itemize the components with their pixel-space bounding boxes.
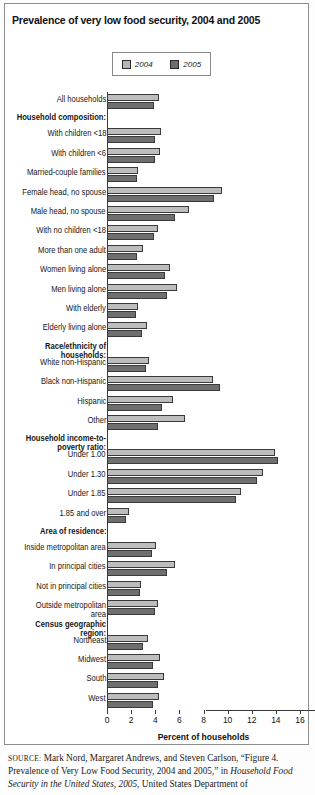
chart-row: With no children <18 (8, 223, 306, 242)
x-tick-label: 10 (223, 715, 232, 725)
chart-row: More than one adult (8, 243, 306, 262)
row-bars (107, 204, 306, 223)
row-label-text: Outside metropolitan area (20, 601, 106, 619)
bar-2005 (107, 292, 167, 299)
chart-row: All households (8, 92, 306, 111)
row-bars (107, 165, 306, 184)
row-bars (107, 525, 306, 540)
bar-2005 (107, 156, 155, 163)
row-label-text: Elderly living alone (42, 323, 106, 332)
category-header-row: Household composition: (8, 111, 306, 126)
row-bars (107, 146, 306, 165)
chart-row: Male head, no spouse (8, 204, 306, 223)
x-tick (276, 710, 277, 714)
row-label-text: Black non-Hispanic (41, 377, 106, 386)
row-bars (107, 223, 306, 242)
row-bars (107, 633, 306, 652)
row-label-text: Northeast (73, 636, 106, 645)
bar-2005 (107, 136, 155, 143)
row-bars (107, 506, 306, 525)
x-tick-label: 12 (247, 715, 256, 725)
row-bars (107, 432, 306, 447)
x-tick-label: 0 (105, 715, 110, 725)
bar-2004 (107, 635, 148, 642)
bar-2004 (107, 264, 170, 271)
chart-row: Midwest (8, 652, 306, 671)
row-label-text: West (89, 694, 106, 703)
chart-row: Inside metropolitan area (8, 540, 306, 559)
bar-2004 (107, 693, 159, 700)
bar-2005 (107, 102, 154, 109)
bar-2004 (107, 303, 138, 310)
bar-2004 (107, 128, 161, 135)
row-label-text: More than one adult (38, 246, 106, 255)
row-bars (107, 282, 306, 301)
chart-plot-area: All householdsHousehold composition:With… (8, 92, 306, 717)
row-bars (107, 262, 306, 281)
chart-row: Under 1.00 (8, 447, 306, 466)
chart-row: 1.85 and over (8, 506, 306, 525)
row-label-text: Household composition: (17, 113, 106, 122)
bar-2004 (107, 148, 160, 155)
bar-2004 (107, 357, 149, 364)
category-header-row: Race/ethnicity of households: (8, 340, 306, 355)
y-axis-line (107, 92, 108, 710)
bar-2005 (107, 233, 154, 240)
bar-2004 (107, 673, 164, 680)
bar-2005 (107, 496, 236, 503)
row-bars (107, 111, 306, 126)
category-header-row: Household income-to-poverty ratio: (8, 432, 306, 447)
bar-2004 (107, 542, 156, 549)
chart-row: Female head, no spouse (8, 185, 306, 204)
legend-label-2005: 2005 (183, 60, 201, 69)
row-bars (107, 394, 306, 413)
bar-2004 (107, 245, 143, 252)
row-bars (107, 126, 306, 145)
row-bars (107, 559, 306, 578)
x-tick-label: 4 (153, 715, 158, 725)
bar-2005 (107, 569, 167, 576)
chart-row: With elderly (8, 301, 306, 320)
chart-row: Women living alone (8, 262, 306, 281)
x-axis-title: Percent of households (107, 732, 300, 742)
bar-2004 (107, 449, 275, 456)
legend-label-2004: 2004 (135, 60, 153, 69)
row-bars (107, 598, 306, 617)
bar-2004 (107, 581, 141, 588)
chart-row: Men living alone (8, 282, 306, 301)
legend-swatch-2004 (122, 60, 131, 69)
chart-row: Under 1.85 (8, 486, 306, 505)
chart-row: Married-couple families (8, 165, 306, 184)
x-tick (228, 710, 229, 714)
row-bars (107, 340, 306, 355)
chart-row: Black non-Hispanic (8, 374, 306, 393)
bar-2005 (107, 311, 136, 318)
bar-2004 (107, 508, 129, 515)
x-tick (300, 710, 301, 714)
row-label-text: South (86, 674, 106, 683)
row-label-text: 1.85 and over (59, 509, 106, 518)
x-tick (107, 710, 108, 714)
row-label-text: All households (56, 95, 106, 104)
chart-row: Other (8, 413, 306, 432)
bar-2005 (107, 589, 140, 596)
chart-row: With children <6 (8, 146, 306, 165)
bar-2004 (107, 167, 138, 174)
row-label-text: Under 1.00 (68, 450, 106, 459)
bar-2004 (107, 415, 185, 422)
bar-2005 (107, 477, 257, 484)
bar-2004 (107, 561, 175, 568)
page-title: Prevalence of very low food security, 20… (12, 14, 302, 26)
bar-2005 (107, 681, 158, 688)
row-label-text: Other (87, 416, 106, 425)
row-label-text: Under 1.85 (68, 489, 106, 498)
x-tick (179, 710, 180, 714)
row-label-text: With elderly (66, 304, 106, 313)
row-bars (107, 243, 306, 262)
legend-item-2005: 2005 (170, 60, 201, 69)
x-tick (252, 710, 253, 714)
row-bars (107, 467, 306, 486)
x-axis-line (206, 710, 315, 711)
bar-2004 (107, 600, 158, 607)
bar-2005 (107, 404, 162, 411)
